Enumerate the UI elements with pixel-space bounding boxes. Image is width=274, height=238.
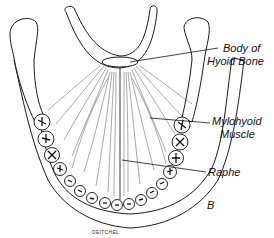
artist-signature: DEITCHEL (92, 229, 119, 235)
anatomical-diagram: Body of Hyoid Bone Mylohyoid Muscle Raph… (0, 0, 274, 238)
panel-letter: B (207, 199, 214, 211)
label-body-of: Body of (223, 42, 260, 54)
hyoid-body (102, 57, 138, 67)
teeth-right (124, 117, 191, 210)
label-mylohyoid: Mylohyoid (212, 115, 262, 127)
label-hyoid-bone: Hyoid Bone (207, 55, 264, 67)
mylohyoid-muscle-left (48, 66, 116, 196)
label-muscle: Muscle (220, 128, 255, 140)
right-ramus (182, 18, 209, 122)
label-raphe: Raphe (208, 166, 240, 178)
